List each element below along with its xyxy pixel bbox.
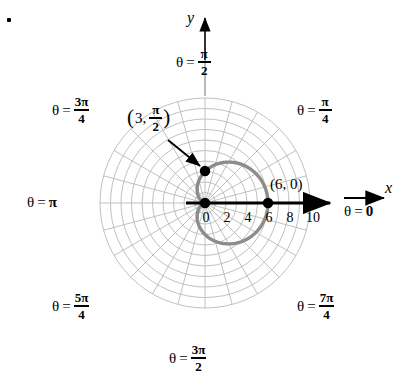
angle-label-theta-pi-4: θ = π 4: [297, 96, 332, 126]
fraction-numerator: 3π: [74, 95, 90, 109]
fraction: 7π 4: [319, 291, 335, 321]
point-6-0: [263, 198, 273, 208]
fraction-numerator: 5π: [74, 291, 90, 305]
theta-symbol: θ: [52, 103, 59, 118]
angle-label-theta-3pi-4: θ = 3π 4: [52, 96, 89, 126]
angle-label-theta-7pi-4: θ = 7π 4: [297, 292, 334, 322]
tick-label-6: 6: [266, 211, 273, 225]
angle-value: π: [49, 195, 57, 210]
angle-value: 0: [366, 204, 374, 219]
fraction-numerator: π: [151, 103, 160, 117]
equals-sign: =: [354, 204, 362, 219]
angle-label-theta-0: θ = 0: [344, 204, 373, 219]
equals-sign: =: [307, 299, 315, 314]
fraction-denominator: 2: [200, 63, 209, 77]
theta-symbol: θ: [52, 299, 59, 314]
x-axis-label: x: [385, 180, 392, 196]
fraction: π 2: [149, 103, 162, 133]
y-axis-label: y: [187, 10, 194, 26]
tick-label-4: 4: [245, 211, 252, 225]
theta-symbol: θ: [344, 204, 351, 219]
fraction-numerator: π: [200, 47, 209, 61]
fraction-denominator: 4: [77, 307, 86, 321]
tick-label-0: 0: [203, 211, 210, 225]
angle-label-theta-pi-2: θ = π 2: [176, 48, 211, 78]
tick-label-8: 8: [287, 211, 294, 225]
annotation-point-6-0: (6, 0): [270, 177, 303, 192]
radius-value: 3,: [135, 111, 146, 126]
equals-sign: =: [37, 195, 45, 210]
point-3-pi-over-2: [200, 166, 210, 176]
close-paren: ): [163, 107, 170, 128]
angle-label-theta-5pi-4: θ = 5π 4: [52, 292, 89, 322]
equals-sign: =: [179, 351, 187, 366]
fraction-numerator: 7π: [319, 291, 335, 305]
tick-label-2: 2: [224, 211, 231, 225]
fraction-denominator: 2: [194, 359, 203, 373]
fraction: 3π 4: [74, 95, 90, 125]
polar-graph-figure: 0 2 4 6 8 10 y x θ = 0 θ = π 4 θ = π 2 θ…: [0, 0, 415, 387]
fraction-denominator: 4: [77, 111, 86, 125]
equals-sign: =: [186, 55, 194, 70]
fraction-numerator: π: [321, 95, 330, 109]
fraction: π 2: [198, 47, 211, 77]
fraction-numerator: 3π: [191, 343, 207, 357]
equals-sign: =: [62, 103, 70, 118]
equals-sign: =: [62, 299, 70, 314]
annotation-point-3-pi-over-2: ( 3, π 2 ): [127, 104, 170, 134]
theta-symbol: θ: [297, 103, 304, 118]
theta-symbol: θ: [297, 299, 304, 314]
fraction: 5π 4: [74, 291, 90, 321]
fraction-denominator: 4: [322, 307, 331, 321]
fraction-denominator: 2: [152, 119, 161, 133]
theta-symbol: θ: [27, 195, 34, 210]
theta-symbol: θ: [176, 55, 183, 70]
theta-symbol: θ: [169, 351, 176, 366]
fraction-denominator: 4: [321, 111, 330, 125]
open-paren: (: [127, 107, 134, 128]
angle-label-theta-pi: θ = π: [27, 195, 57, 210]
tick-label-10: 10: [306, 211, 320, 225]
equals-sign: =: [307, 103, 315, 118]
angle-label-theta-3pi-2: θ = 3π 2: [169, 344, 206, 374]
point-origin: [200, 198, 210, 208]
fraction: 3π 2: [191, 343, 207, 373]
fraction: π 4: [319, 95, 332, 125]
